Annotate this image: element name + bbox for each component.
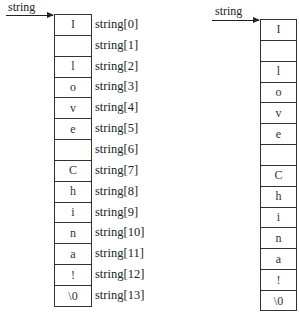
array-cell: a [261, 249, 296, 270]
array-cell [261, 41, 296, 62]
index-label: string[10] [95, 222, 144, 243]
index-label: string[3] [95, 77, 144, 98]
array-cell: ! [55, 265, 91, 286]
array-cell: \0 [261, 291, 296, 312]
array-cell: i [261, 208, 296, 229]
index-label-column: string[0] string[1] string[2] string[3] … [95, 14, 144, 306]
array-cell: n [55, 223, 91, 244]
left-pointer-label: string [8, 1, 35, 13]
array-cell: l [55, 57, 91, 78]
array-cell: ! [261, 270, 296, 291]
index-label: string[6] [95, 139, 144, 160]
array-cell: C [55, 161, 91, 182]
array-cell: I [55, 15, 91, 36]
index-label: string[9] [95, 202, 144, 223]
right-pointer-arrow-icon [212, 20, 259, 21]
index-label: string[13] [95, 285, 144, 306]
right-char-array: I l o v e C h i n a ! \0 [260, 19, 297, 311]
array-cell: h [55, 182, 91, 203]
array-cell: i [55, 203, 91, 224]
index-label: string[7] [95, 160, 144, 181]
array-cell: e [261, 124, 296, 145]
array-cell: n [261, 228, 296, 249]
left-pointer-arrow-icon [6, 15, 53, 16]
right-pointer-label: string [215, 5, 242, 17]
index-label: string[12] [95, 264, 144, 285]
array-cell [261, 145, 296, 166]
index-label: string[1] [95, 35, 144, 56]
array-cell [55, 140, 91, 161]
array-cell: \0 [55, 286, 91, 307]
array-cell: v [261, 103, 296, 124]
array-cell: o [55, 78, 91, 99]
index-label: string[5] [95, 118, 144, 139]
index-label: string[2] [95, 56, 144, 77]
index-label: string[4] [95, 97, 144, 118]
array-cell: e [55, 119, 91, 140]
index-label: string[8] [95, 181, 144, 202]
index-label: string[11] [95, 243, 144, 264]
index-label: string[0] [95, 14, 144, 35]
array-cell: l [261, 62, 296, 83]
array-cell: v [55, 98, 91, 119]
array-cell [55, 36, 91, 57]
array-cell: I [261, 20, 296, 41]
array-cell: C [261, 166, 296, 187]
array-cell: o [261, 83, 296, 104]
array-cell: a [55, 244, 91, 265]
array-cell: h [261, 187, 296, 208]
left-char-array: I l o v e C h i n a ! \0 [54, 14, 92, 307]
